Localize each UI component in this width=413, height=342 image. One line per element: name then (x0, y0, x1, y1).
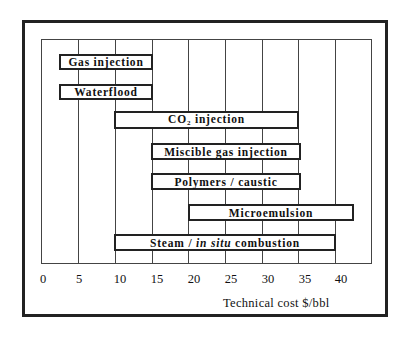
gridline-40 (335, 40, 336, 263)
bar-waterflood: Waterflood (59, 84, 153, 100)
bar-label: CO2 injection (168, 113, 245, 127)
x-tick-20: 20 (188, 272, 201, 287)
bar-co2-injection: CO2 injection (114, 111, 299, 129)
bar-label: Waterflood (74, 86, 138, 98)
bar-gas-injection: Gas injection (59, 54, 153, 70)
bar-microemulsion: Microemulsion (188, 204, 354, 221)
x-tick-35: 35 (299, 272, 312, 287)
bar-steam-in-situ-combustion: Steam / in situ combustion (114, 234, 336, 251)
gridline-5 (78, 40, 79, 263)
x-tick-40: 40 (335, 272, 348, 287)
bar-label: Gas injection (68, 56, 143, 68)
x-tick-10: 10 (114, 272, 127, 287)
bar-label: Miscible gas injection (164, 146, 288, 158)
bar-label: Microemulsion (229, 207, 313, 219)
gridline-10 (115, 40, 116, 263)
bar-miscible-gas-injection: Miscible gas injection (151, 143, 301, 160)
x-tick-5: 5 (76, 272, 82, 287)
x-axis-label: Technical cost $/bbl (223, 296, 329, 311)
x-tick-0: 0 (40, 272, 46, 287)
bar-label: Steam / in situ combustion (150, 237, 300, 249)
bar-label: Polymers / caustic (174, 176, 277, 188)
x-tick-25: 25 (225, 272, 238, 287)
x-tick-15: 15 (151, 272, 164, 287)
x-tick-30: 30 (262, 272, 275, 287)
bar-polymers-caustic: Polymers / caustic (151, 173, 301, 190)
